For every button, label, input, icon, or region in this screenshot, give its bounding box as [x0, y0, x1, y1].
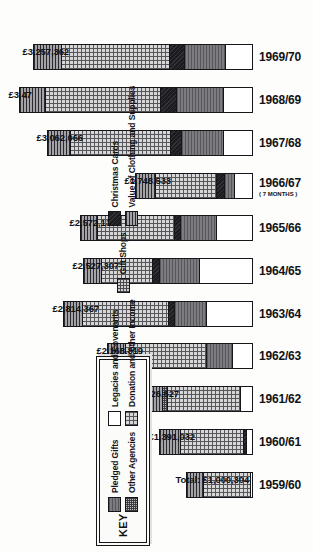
bar-segment-xmas — [152, 259, 159, 283]
x-axis-tick-label: 1965/66 — [259, 221, 301, 235]
bar-segment-pledged — [176, 88, 223, 112]
bar-segment-legacies — [234, 174, 253, 198]
legend-swatch-other — [125, 497, 138, 512]
legend-swatch-xmas — [108, 211, 121, 226]
year-text: 1963/64 — [259, 307, 301, 321]
bar-group: £1,748,5331966/67( 7 MONTHS ) — [135, 173, 253, 199]
bar-segment-legacies — [225, 45, 253, 69]
bar-segment-xmas — [216, 174, 224, 198]
legend-title: KEY — [117, 514, 129, 537]
year-text: 1961/62 — [259, 392, 301, 406]
year-text: 1962/63 — [259, 349, 301, 363]
x-axis-tick-label: 1959/60 — [259, 478, 301, 492]
bar-value-label: £3,062,066 — [37, 132, 84, 143]
x-axis-tick-label: 1964/65 — [259, 264, 301, 278]
bar-segment-legacies — [240, 387, 253, 411]
chart-legend: KEY Pledged GiftsOther AgenciesLegacies … — [96, 356, 150, 546]
legend-item-xmas: Christmas Cards — [108, 86, 121, 227]
legend-column: Gift Shops — [102, 232, 144, 293]
year-text: 1960/61 — [259, 435, 301, 449]
legend-item-other: Other Agencies — [125, 432, 138, 512]
bar-segment-legacies — [232, 344, 253, 368]
legend-label: Gift Shops — [118, 232, 128, 274]
legend-swatch-donation — [125, 411, 138, 426]
legend-label: Legacies and Covenants — [110, 309, 120, 406]
bar-segment-pledged — [159, 259, 199, 283]
legend-swatch-legacies — [108, 411, 121, 426]
legend-label: Christmas Cards — [110, 141, 120, 208]
bar-segment-pledged — [181, 131, 223, 155]
legend-item-giftshops: Gift Shops — [117, 232, 130, 293]
legend-swatch-pledged — [108, 497, 121, 512]
legend-item-donation: Donation and other Income — [125, 299, 138, 426]
bar-value-label: £3,47 — [9, 89, 32, 100]
legend-swatch-giftshops — [117, 278, 130, 293]
bar-group: £1,626,6271961/62 — [143, 386, 253, 412]
chart-figure: Total: £1,000,3041959/60£1,391,0321960/6… — [0, 0, 313, 552]
legend-label: Value of Clothing and Supplies — [127, 86, 137, 208]
bar-segment-donation — [61, 45, 169, 69]
year-text: 1964/65 — [259, 264, 301, 278]
legend-columns: Pledged GiftsOther AgenciesLegacies and … — [102, 362, 144, 512]
x-axis-tick-label: 1968/69 — [259, 93, 301, 107]
bar-segment-legacies — [250, 473, 253, 497]
year-text: 1965/66 — [259, 221, 301, 235]
year-text: 1966/67 — [259, 175, 301, 189]
bar-segment-pledged — [180, 216, 216, 240]
bar-segment-legacies — [206, 302, 253, 326]
bar-group: £2,814,3671963/64 — [63, 301, 253, 327]
year-text: 1969/70 — [259, 50, 301, 64]
bar-value-label: £2,814,367 — [53, 303, 100, 314]
bar-segment-legacies — [246, 430, 253, 454]
year-text: 1968/69 — [259, 93, 301, 107]
bar-segment-xmas — [170, 131, 181, 155]
bar-group: Total: £1,000,3041959/60 — [186, 472, 253, 498]
x-axis-tick-label: 1960/61 — [259, 435, 301, 449]
bar-value-label: £3,257,362 — [23, 46, 70, 57]
year-text: 1959/60 — [259, 478, 301, 492]
bar-group: £3,257,3621969/70 — [33, 44, 253, 70]
legend-label: Donation and other Income — [127, 299, 137, 407]
legend-item-clothing: Value of Clothing and Supplies — [125, 86, 138, 227]
legend-label: Other Agencies — [127, 432, 137, 493]
bar-segment-pledged — [206, 344, 232, 368]
bar-segment-pledged — [174, 302, 206, 326]
x-axis-tick-label: 1966/67( 7 MONTHS ) — [259, 175, 301, 196]
bar-segment-pledged — [184, 45, 225, 69]
legend-column: Christmas CardsValue of Clothing and Sup… — [102, 86, 144, 227]
bar-group: £3,062,0661967/68 — [47, 130, 253, 156]
x-axis-tick-label: 1962/63 — [259, 349, 301, 363]
bar-value-label: Total: £1,000,304 — [176, 474, 250, 485]
legend-column: Legacies and CovenantsDonation and other… — [102, 299, 144, 426]
bar-segment-legacies — [216, 216, 253, 240]
legend-item-legacies: Legacies and Covenants — [108, 299, 121, 426]
x-axis-tick-label: 1961/62 — [259, 392, 301, 406]
bar-segment-legacies — [223, 131, 253, 155]
bar-value-label: £1,391,032 — [149, 431, 196, 442]
bar-segment-xmas — [169, 45, 184, 69]
x-axis-tick-label: 1969/70 — [259, 50, 301, 64]
bar-segment-pledged — [224, 174, 234, 198]
legend-swatch-clothing — [125, 211, 138, 226]
legend-label: Pledged Gifts — [110, 440, 120, 494]
x-axis-tick-label: 1967/68 — [259, 136, 301, 150]
bar-group: £1,391,0321960/61 — [159, 429, 253, 455]
bar-segment-legacies — [199, 259, 253, 283]
x-axis-tick-label: 1963/64 — [259, 307, 301, 321]
year-annotation: ( 7 MONTHS ) — [259, 190, 301, 196]
legend-item-pledged: Pledged Gifts — [108, 432, 121, 512]
bar-segment-legacies — [223, 88, 253, 112]
bar-segment-xmas — [160, 88, 176, 112]
legend-column: Pledged GiftsOther Agencies — [102, 432, 144, 512]
plot-area: Total: £1,000,3041959/60£1,391,0321960/6… — [0, 36, 313, 506]
year-text: 1967/68 — [259, 136, 301, 150]
